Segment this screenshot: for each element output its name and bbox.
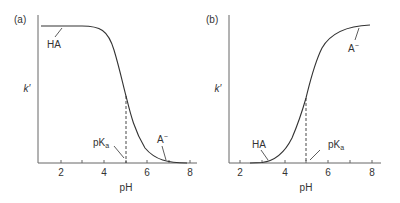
panel-b-tick-8: 8 — [369, 167, 375, 178]
panel-b-tick-4: 4 — [282, 167, 288, 178]
panel-b-a-label: A− — [348, 42, 359, 54]
panel-a-a-label: A− — [157, 133, 168, 145]
panel-b-ha-leader — [261, 150, 268, 160]
panel-a-pka-leader — [114, 146, 124, 158]
panel-a-ha-label: HA — [47, 39, 61, 50]
panel-b-label: (b) — [206, 14, 218, 25]
panel-a-tick-2: 2 — [58, 167, 64, 178]
panel-a-tick-8: 8 — [187, 167, 193, 178]
figure: (a) 2 4 6 8 pH k′ HA pKa A− — [0, 0, 400, 203]
panel-b-pka-leader — [310, 150, 320, 160]
panel-b-ha-label: HA — [252, 139, 266, 150]
panel-a-tick-4: 4 — [101, 167, 107, 178]
panel-a-ha-leader — [55, 28, 62, 37]
panel-a-x-axis-title: pH — [120, 182, 133, 193]
panel-a-label: (a) — [14, 14, 26, 25]
panel-a-tick-6: 6 — [144, 167, 150, 178]
panel-a-curve — [41, 26, 187, 163]
panel-b-a-leader — [355, 28, 359, 40]
panel-a: (a) 2 4 6 8 pH k′ HA pKa A− — [14, 14, 197, 193]
panel-a-y-axis-title: k′ — [24, 83, 32, 94]
panel-b-y-axis-title: k′ — [215, 83, 223, 94]
panel-b-tick-6: 6 — [325, 167, 331, 178]
panel-a-pka-label: pKa — [93, 137, 109, 149]
panel-a-a-leader — [162, 146, 166, 160]
panel-b-pka-label: pKa — [328, 139, 344, 151]
panel-b-tick-2: 2 — [237, 167, 243, 178]
panel-b-x-axis-title: pH — [300, 182, 313, 193]
panel-b: (b) 2 4 6 8 pH k′ HA pKa A− — [206, 14, 381, 193]
